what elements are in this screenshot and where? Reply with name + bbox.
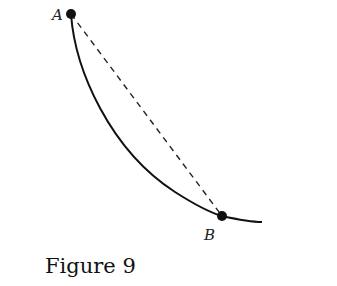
- dashed-chord: [71, 14, 222, 216]
- diagram-canvas: A B: [0, 0, 337, 286]
- curve-a-to-b: [71, 14, 262, 222]
- label-b: B: [203, 226, 215, 244]
- figure-caption: Figure 9: [45, 254, 136, 278]
- label-a: A: [50, 6, 63, 24]
- point-b: [217, 211, 227, 221]
- point-a: [66, 9, 76, 19]
